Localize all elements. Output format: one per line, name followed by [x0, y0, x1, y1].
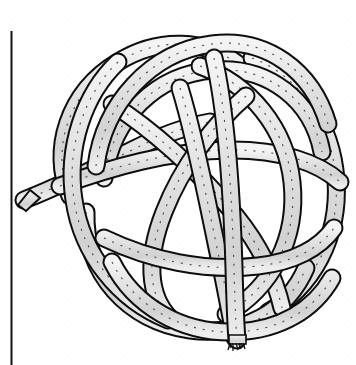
rope-knot-illustration	[0, 0, 356, 365]
figure-page: { "figure": { "kind": "line-illustration…	[0, 0, 356, 365]
